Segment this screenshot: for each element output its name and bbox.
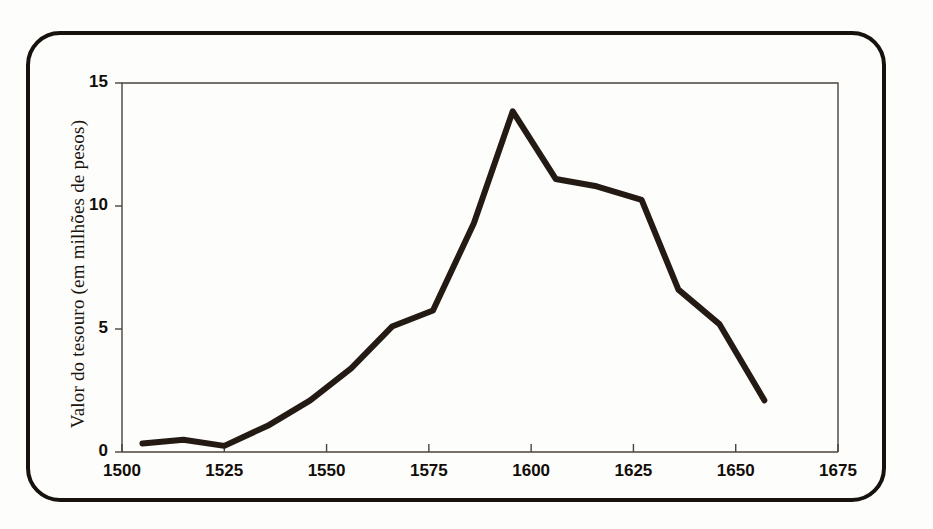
data-line-valor-do-tesouro	[142, 111, 764, 446]
data-series-layer	[142, 111, 764, 446]
x-tick-label: 1600	[496, 461, 566, 481]
x-tick-label: 1550	[292, 461, 362, 481]
x-tick-label: 1525	[189, 461, 259, 481]
x-tick-label: 1575	[394, 461, 464, 481]
line-chart-plot	[0, 0, 933, 529]
x-tick-label: 1650	[701, 461, 771, 481]
y-tick-label: 15	[62, 72, 108, 92]
axes-layer	[115, 83, 838, 452]
y-tick-label: 10	[62, 195, 108, 215]
plot-frame	[122, 83, 838, 452]
y-tick-label: 5	[62, 318, 108, 338]
x-tick-label: 1500	[87, 461, 157, 481]
x-tick-label: 1625	[598, 461, 668, 481]
y-tick-label: 0	[62, 441, 108, 461]
figure-container: Valor do tesouro (em milhões de pesos) 0…	[0, 0, 933, 529]
x-tick-label: 1675	[803, 461, 873, 481]
